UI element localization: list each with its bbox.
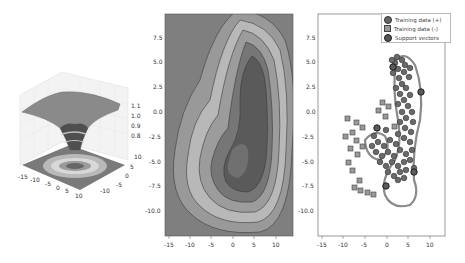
y-tick: 2.5	[306, 83, 316, 90]
x-tick: -15	[317, 241, 327, 248]
y-tick: -2.5	[302, 133, 314, 140]
square-marker-icon	[384, 25, 391, 32]
y-tick: 0.0	[306, 108, 316, 115]
legend-item-negative: Training data (-)	[384, 24, 448, 33]
x-tick: 10	[426, 241, 434, 248]
y-tick: -10.0	[298, 207, 314, 214]
svm-scatter-plot: 7.5 5.0 2.5 0.0 -2.5 -5.0 -7.5 -10.0 -15…	[0, 0, 465, 263]
x-tick: 5	[406, 241, 410, 248]
y-tick: 5.0	[306, 58, 316, 65]
x-tick: 0	[385, 241, 389, 248]
legend-item-positive: Training data (+)	[384, 15, 448, 24]
x-tick: -10	[338, 241, 348, 248]
support-vector-marker-icon	[384, 34, 392, 42]
legend-label: Training data (-)	[394, 26, 438, 32]
y-tick: 7.5	[306, 34, 316, 41]
legend-label: Training data (+)	[395, 17, 442, 23]
circle-marker-icon	[384, 16, 392, 24]
x-tick: -5	[361, 241, 367, 248]
legend-item-support-vectors: Support vectors	[384, 33, 448, 42]
legend-label: Support vectors	[395, 35, 439, 41]
legend: Training data (+) Training data (-) Supp…	[381, 13, 451, 43]
y-tick: -7.5	[302, 182, 314, 189]
y-tick: -5.0	[302, 158, 314, 165]
